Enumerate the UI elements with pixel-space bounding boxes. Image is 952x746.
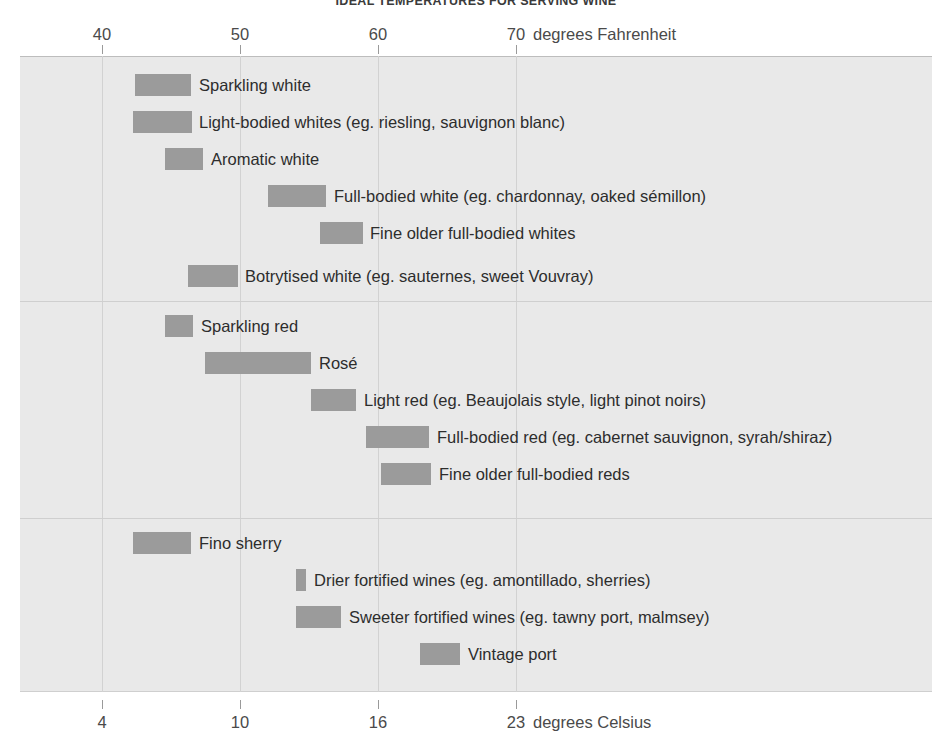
bar-label: Sparkling white bbox=[199, 75, 311, 95]
bar-row[interactable]: Fino sherry bbox=[20, 532, 932, 554]
top-axis-fahrenheit: 40506070degrees Fahrenheit bbox=[0, 24, 952, 50]
bar-row[interactable]: Drier fortified wines (eg. amontillado, … bbox=[20, 569, 932, 591]
temperature-range-bar[interactable] bbox=[133, 532, 191, 554]
chart-title: IDEAL TEMPERATURES FOR SERVING WINE bbox=[0, 0, 952, 8]
bar-row[interactable]: Fine older full-bodied whites bbox=[20, 222, 932, 244]
bar-label: Rosé bbox=[319, 353, 358, 373]
plot-area: Sparkling whiteLight-bodied whites (eg. … bbox=[20, 56, 932, 692]
fahrenheit-tick-label-60: 60 bbox=[369, 24, 387, 44]
bar-row[interactable]: Fine older full-bodied reds bbox=[20, 463, 932, 485]
celsius-tick-mark bbox=[516, 700, 517, 709]
celsius-unit-label: degrees Celsius bbox=[533, 712, 651, 732]
bar-label: Fine older full-bodied reds bbox=[439, 464, 630, 484]
celsius-tick-label-23: 23 bbox=[507, 712, 525, 732]
fahrenheit-tick-label-50: 50 bbox=[231, 24, 249, 44]
group-separator bbox=[20, 518, 932, 519]
celsius-tick-mark bbox=[102, 700, 103, 709]
celsius-tick-mark bbox=[240, 700, 241, 709]
bar-row[interactable]: Sweeter fortified wines (eg. tawny port,… bbox=[20, 606, 932, 628]
temperature-range-bar[interactable] bbox=[381, 463, 431, 485]
fahrenheit-tick-mark bbox=[378, 45, 379, 54]
group-separator bbox=[20, 301, 932, 302]
celsius-tick-label-10: 10 bbox=[231, 712, 249, 732]
temperature-range-bar[interactable] bbox=[296, 606, 341, 628]
temperature-range-bar[interactable] bbox=[165, 315, 193, 337]
temperature-range-bar[interactable] bbox=[420, 643, 460, 665]
bar-row[interactable]: Light red (eg. Beaujolais style, light p… bbox=[20, 389, 932, 411]
bottom-axis-celsius: 4101623degrees Celsius bbox=[0, 700, 952, 726]
bar-label: Botrytised white (eg. sauternes, sweet V… bbox=[245, 266, 594, 286]
bar-label: Full-bodied white (eg. chardonnay, oaked… bbox=[334, 186, 706, 206]
temperature-range-bar[interactable] bbox=[135, 74, 191, 96]
bar-label: Sparkling red bbox=[201, 316, 298, 336]
bar-label: Light-bodied whites (eg. riesling, sauvi… bbox=[199, 112, 565, 132]
temperature-range-bar[interactable] bbox=[311, 389, 356, 411]
fahrenheit-tick-mark bbox=[240, 45, 241, 54]
fahrenheit-tick-mark bbox=[516, 45, 517, 54]
celsius-tick-label-16: 16 bbox=[369, 712, 387, 732]
temperature-range-bar[interactable] bbox=[165, 148, 203, 170]
temperature-range-bar[interactable] bbox=[366, 426, 429, 448]
temperature-range-bar[interactable] bbox=[296, 569, 306, 591]
bar-label: Fino sherry bbox=[199, 533, 282, 553]
temperature-range-bar[interactable] bbox=[205, 352, 311, 374]
temperature-range-bar[interactable] bbox=[188, 265, 238, 287]
bar-row[interactable]: Rosé bbox=[20, 352, 932, 374]
bar-row[interactable]: Vintage port bbox=[20, 643, 932, 665]
bar-label: Drier fortified wines (eg. amontillado, … bbox=[314, 570, 651, 590]
bar-row[interactable]: Sparkling white bbox=[20, 74, 932, 96]
celsius-tick-mark bbox=[378, 700, 379, 709]
fahrenheit-tick-label-40: 40 bbox=[93, 24, 111, 44]
temperature-range-bar[interactable] bbox=[133, 111, 192, 133]
bar-row[interactable]: Full-bodied white (eg. chardonnay, oaked… bbox=[20, 185, 932, 207]
plot-top-edge bbox=[20, 56, 932, 57]
bar-label: Aromatic white bbox=[211, 149, 319, 169]
bar-row[interactable]: Light-bodied whites (eg. riesling, sauvi… bbox=[20, 111, 932, 133]
bar-label: Light red (eg. Beaujolais style, light p… bbox=[364, 390, 706, 410]
wine-serving-temperature-chart: IDEAL TEMPERATURES FOR SERVING WINE 4050… bbox=[0, 0, 952, 746]
bar-label: Full-bodied red (eg. cabernet sauvignon,… bbox=[437, 427, 832, 447]
fahrenheit-tick-label-70: 70 bbox=[507, 24, 525, 44]
fahrenheit-unit-label: degrees Fahrenheit bbox=[533, 24, 676, 44]
bar-label: Fine older full-bodied whites bbox=[370, 223, 575, 243]
bar-row[interactable]: Sparkling red bbox=[20, 315, 932, 337]
temperature-range-bar[interactable] bbox=[320, 222, 363, 244]
bar-row[interactable]: Botrytised white (eg. sauternes, sweet V… bbox=[20, 265, 932, 287]
plot-bottom-edge bbox=[20, 691, 932, 692]
bar-row[interactable]: Aromatic white bbox=[20, 148, 932, 170]
celsius-tick-label-4: 4 bbox=[97, 712, 106, 732]
temperature-range-bar[interactable] bbox=[268, 185, 326, 207]
bar-row[interactable]: Full-bodied red (eg. cabernet sauvignon,… bbox=[20, 426, 932, 448]
fahrenheit-tick-mark bbox=[102, 45, 103, 54]
bar-label: Vintage port bbox=[468, 644, 557, 664]
bar-label: Sweeter fortified wines (eg. tawny port,… bbox=[349, 607, 709, 627]
